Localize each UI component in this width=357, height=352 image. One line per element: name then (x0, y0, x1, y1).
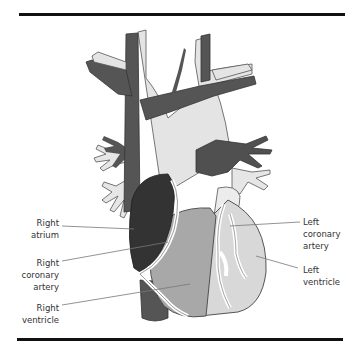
label-left-coronary-artery: Left coronary artery (303, 216, 353, 252)
heart-diagram (0, 0, 357, 352)
label-left-ventricle: Left ventricle (303, 264, 353, 288)
label-right-coronary-artery: Right coronary artery (14, 257, 59, 293)
left-pulmonary-veins (232, 168, 270, 194)
label-right-ventricle: Right ventricle (14, 302, 59, 326)
superior-vena-cava (124, 33, 140, 212)
left-vessel-vertical (201, 34, 210, 82)
label-right-atrium: Right atrium (22, 217, 59, 241)
small-artery-branch (172, 48, 186, 92)
